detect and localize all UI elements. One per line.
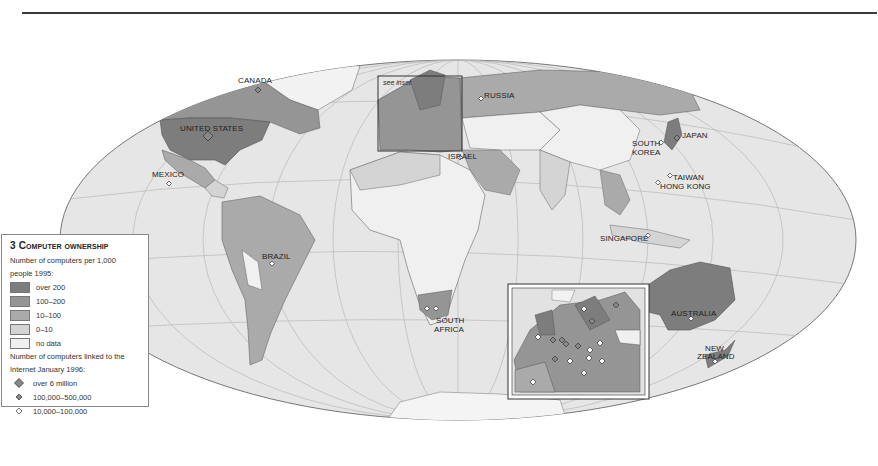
legend-row-100-200: 100–200 [10, 294, 142, 308]
legend-label: 10–100 [36, 311, 61, 320]
legend-row-0-10: 0–10 [10, 322, 142, 336]
swatch-0-10 [10, 324, 30, 335]
country-label: AUSTRALIA [671, 309, 716, 318]
country-label: TAIWAN [673, 173, 704, 182]
legend-label: 10,000–100,000 [33, 407, 87, 416]
legend-row-over-200: over 200 [10, 280, 142, 294]
legend-row-no-data: no data [10, 336, 142, 350]
legend: 3Computer ownership Number of computers … [1, 234, 149, 407]
country-label: BRAZIL [262, 252, 291, 261]
country-label: ISRAEL [448, 152, 477, 161]
swatch-10-100 [10, 310, 30, 321]
ownership-heading-line-2: people 1995: [10, 267, 142, 280]
country-label: ZEALAND [697, 352, 735, 361]
legend-label: 100–200 [36, 297, 65, 306]
swatch-no-data [10, 338, 30, 349]
ownership-heading-line-1: Number of computers per 1,000 [10, 254, 142, 267]
country-label: RUSSIA [484, 91, 514, 100]
small-diamond-open-icon [14, 406, 24, 416]
country-label: CANADA [238, 76, 272, 85]
country-label: SOUTH [632, 139, 661, 148]
legend-title: 3Computer ownership [10, 240, 142, 251]
large-diamond-filled-icon [14, 378, 24, 388]
legend-label: 100,000–500,000 [33, 393, 91, 402]
small-diamond-filled-icon [14, 392, 24, 402]
internet-heading-line-2: Internet January 1996: [10, 363, 142, 376]
legend-row-10k-100k: 10,000–100,000 [10, 404, 142, 418]
legend-row-10-100: 10–100 [10, 308, 142, 322]
country-label: MEXICO [152, 170, 184, 179]
internet-heading: Number of computers linked to the Intern… [10, 350, 142, 376]
legend-label: 0–10 [36, 325, 53, 334]
see-inset-note: see inset [383, 79, 411, 86]
legend-row-over-6-million: over 6 million [10, 376, 142, 390]
country-label: HONG KONG [660, 182, 711, 191]
legend-title-text: Computer ownership [19, 240, 109, 251]
europe-inset [508, 284, 649, 399]
country-label: AFRICA [434, 325, 464, 334]
country-label: SOUTH [436, 316, 465, 325]
legend-label: no data [36, 339, 61, 348]
ownership-heading: Number of computers per 1,000 people 199… [10, 254, 142, 280]
country-label: KOREA [632, 148, 661, 157]
swatch-100-200 [10, 296, 30, 307]
country-label: JAPAN [682, 131, 708, 140]
country-label: UNITED STATES [180, 124, 243, 133]
internet-heading-line-1: Number of computers linked to the [10, 350, 142, 363]
swatch-over-200 [10, 282, 30, 293]
ownership-classes: over 200 100–200 10–100 0–10 no data [10, 280, 142, 350]
central-asia [462, 112, 560, 150]
legend-label: over 6 million [33, 379, 77, 388]
legend-title-number: 3 [10, 240, 16, 251]
legend-row-100k-500k: 100,000–500,000 [10, 390, 142, 404]
legend-label: over 200 [36, 283, 65, 292]
country-label: SINGAPORE [600, 234, 648, 243]
